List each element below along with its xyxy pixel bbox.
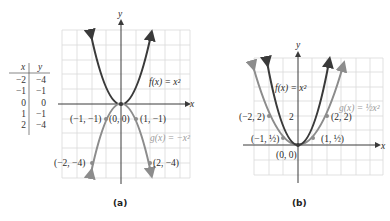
- panel-b: x y 2 f(x) = x² g(x) = ½x² (−2, 2) (2, 2…: [239, 40, 386, 208]
- point-marker: [296, 143, 300, 147]
- point-label: (−1, −1): [70, 114, 101, 125]
- point-marker: [104, 117, 108, 121]
- table-header-x: x: [20, 62, 26, 72]
- table-cell: −4: [36, 120, 46, 130]
- panel-caption-b: (b): [292, 198, 307, 208]
- x-axis-label: x: [189, 99, 195, 109]
- curve-label-f: f(x) = x²: [149, 77, 181, 88]
- point-label: (2, −4): [153, 158, 179, 169]
- point-label: (0, 0): [276, 150, 297, 161]
- y-axis-label: y: [295, 40, 301, 50]
- point-marker: [134, 117, 138, 121]
- point-label: (−2, −4): [54, 158, 85, 169]
- table-cell: −1: [36, 86, 46, 96]
- point-label: (1, ½): [321, 134, 344, 145]
- table-cell: 2: [21, 120, 26, 130]
- panel-a: x y −2 −4 −1 −1 0 0 1 −1 2 −4: [9, 9, 195, 208]
- table-cell: 1: [21, 109, 26, 119]
- value-table: x y −2 −4 −1 −1 0 0 1 −1 2 −4: [9, 62, 50, 135]
- table-cell: −1: [36, 109, 46, 119]
- point-label: (2, 2): [331, 112, 352, 123]
- grid-b: [254, 58, 383, 175]
- figure-canvas: x y −2 −4 −1 −1 0 0 1 −1 2 −4: [0, 0, 390, 221]
- table-header-y: y: [37, 62, 43, 72]
- table-cell: 0: [21, 98, 26, 108]
- point-marker: [325, 114, 329, 118]
- point-label: (−1, ½): [251, 134, 279, 145]
- curve-label-f: f(x) = x²: [275, 83, 307, 94]
- table-cell: −1: [16, 86, 26, 96]
- point-marker: [90, 161, 94, 165]
- point-marker: [311, 136, 315, 140]
- table-cell: 0: [41, 98, 46, 108]
- point-label: (0, 0): [109, 114, 130, 125]
- curve-label-g: g(x) = −x²: [150, 133, 190, 144]
- point-marker: [148, 161, 152, 165]
- point-label: (1, −1): [140, 114, 166, 125]
- y-axis-label: y: [117, 9, 123, 19]
- x-axis-label: x: [380, 141, 386, 151]
- table-cell: −2: [16, 75, 26, 85]
- point-marker: [281, 136, 285, 140]
- point-marker: [119, 102, 123, 106]
- tick-label-2: 2: [289, 112, 294, 122]
- point-label: (−2, 2): [239, 112, 265, 123]
- table-cell: −4: [36, 75, 46, 85]
- point-marker: [267, 114, 271, 118]
- panel-caption-a: (a): [113, 198, 127, 208]
